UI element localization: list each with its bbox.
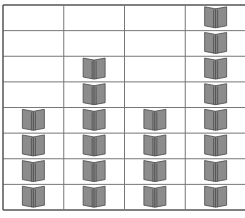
pictograph-chart bbox=[0, 0, 245, 218]
book-icon bbox=[83, 109, 105, 130]
book-icon bbox=[83, 84, 105, 105]
book-icon bbox=[22, 135, 44, 156]
book-icon bbox=[205, 84, 227, 105]
book-icon bbox=[83, 135, 105, 156]
book-icon bbox=[205, 135, 227, 156]
book-icon bbox=[83, 58, 105, 79]
book-icon bbox=[22, 109, 44, 130]
book-icon bbox=[22, 186, 44, 207]
category-labels bbox=[0, 211, 245, 218]
book-icon bbox=[83, 186, 105, 207]
book-icon bbox=[144, 186, 166, 207]
book-icon bbox=[205, 161, 227, 182]
book-icon bbox=[205, 58, 227, 79]
book-icon bbox=[205, 109, 227, 130]
book-icon bbox=[22, 161, 44, 182]
book-icon bbox=[144, 161, 166, 182]
book-icon bbox=[144, 109, 166, 130]
book-icon bbox=[205, 32, 227, 53]
book-icon bbox=[205, 7, 227, 28]
book-icon bbox=[144, 135, 166, 156]
book-icon bbox=[205, 186, 227, 207]
book-icon bbox=[83, 161, 105, 182]
